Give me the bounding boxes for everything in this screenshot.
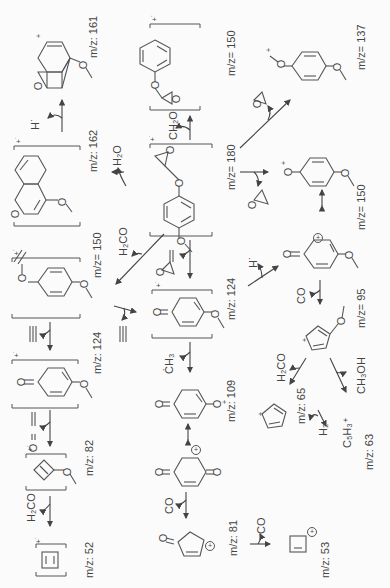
mz-label-137: m/z= 137 <box>356 24 367 70</box>
arrow <box>254 172 259 186</box>
atom-o: O <box>282 250 293 259</box>
atom-o: O <box>174 179 185 188</box>
loss-h-radical: H˙ <box>30 118 41 130</box>
loss-h2o: H₂O <box>112 145 123 166</box>
arrow <box>132 253 142 256</box>
loss-h2co-b: H₂CO <box>276 353 287 382</box>
loss-h-radical-b: H˙ <box>248 256 259 268</box>
charge-plus: + <box>280 161 287 165</box>
arrow <box>310 415 318 420</box>
atom-o: O <box>78 61 89 70</box>
atom-o: O <box>336 317 347 326</box>
mz-label-150-top: m/z= 150 <box>226 30 237 76</box>
mz-label-52: m/z: 52 <box>84 542 95 578</box>
atom-o: O <box>212 468 223 477</box>
charge-plus: + <box>221 400 228 404</box>
atom-o: O <box>154 468 165 477</box>
bracket <box>12 360 78 364</box>
arrow <box>176 500 186 505</box>
arrow <box>258 534 261 544</box>
loss-co-a: CO <box>296 288 307 305</box>
charge-plus: + <box>35 34 42 38</box>
loss-ch3: ĊH₃ <box>164 354 175 374</box>
mz-label-53: m/z: 53 <box>320 542 331 578</box>
mz-label-180: m/z= 180 <box>226 144 237 190</box>
atom-o: O <box>62 468 73 477</box>
arrow <box>48 115 62 118</box>
radical-cation: +˙ <box>151 15 158 21</box>
atom-o: O <box>154 400 165 409</box>
atom-o: O <box>247 201 258 210</box>
radical-cation: +˙ <box>35 537 42 543</box>
c5h3-ion: C₅H₃⁺ <box>342 417 353 448</box>
bracket <box>152 290 212 294</box>
radical-cation: +˙ <box>15 137 22 143</box>
mz-label-81: m/z: 81 <box>228 520 239 556</box>
loss-co-b: CO <box>164 498 175 515</box>
mz-label-150-vinyl: m/z= 150 <box>92 232 103 278</box>
diagram-structures <box>0 0 390 588</box>
bracket <box>14 146 80 150</box>
atom-o: O <box>332 63 343 72</box>
atom-o: O <box>57 198 68 207</box>
loss-ch3oh: CH₃OH <box>356 357 367 394</box>
arrow <box>180 352 190 357</box>
bracket <box>150 106 200 110</box>
atom-o: O <box>176 237 187 246</box>
circled-plus: + <box>205 541 215 551</box>
atom-o: O <box>16 378 27 387</box>
mz-label-63: m/z: 63 <box>364 434 375 470</box>
arrow <box>40 330 50 335</box>
bracket <box>26 486 66 490</box>
atom-o: O <box>252 100 263 109</box>
arrow <box>40 504 50 510</box>
atom-o: O <box>340 169 351 178</box>
bracket <box>150 24 200 28</box>
phenyl-glycidyl-structure <box>140 40 172 104</box>
atom-o: O <box>155 268 166 277</box>
bracket <box>14 222 80 226</box>
acetylene-icon <box>120 326 126 342</box>
methoxy-cp-95-structure <box>306 306 344 350</box>
cyclopentenone-81-structure <box>166 532 204 556</box>
arrow <box>268 106 270 120</box>
atom-o: O <box>158 534 169 543</box>
atom-o: O <box>276 60 287 69</box>
atom-o: O <box>152 308 163 317</box>
fragmentation-diagram: m/z: 161 m/z: 162 m/z= 150 m/z= 137 m/z=… <box>0 0 390 588</box>
atom-o: O <box>10 210 21 219</box>
arrow <box>122 308 125 320</box>
loss-h2: H₂ <box>318 424 329 436</box>
arrow <box>310 290 320 294</box>
charge-plus: + <box>257 412 264 416</box>
atom-o: O <box>150 81 161 90</box>
atom-o: O <box>210 310 221 319</box>
arrow <box>290 358 306 384</box>
charge-plus: + <box>301 338 308 342</box>
radical-cation: +˙ <box>27 445 34 451</box>
mz-label-109: m/z: 109 <box>226 380 237 422</box>
mz-label-162: m/z: 162 <box>88 130 99 172</box>
arrow <box>336 372 346 373</box>
bracket <box>152 334 212 338</box>
bracket <box>36 544 66 548</box>
atom-o: O <box>344 251 355 260</box>
circled-plus: + <box>191 445 201 455</box>
circled-plus: + <box>313 233 323 243</box>
atom-o: O <box>79 380 90 389</box>
cyclopentadienyl-65-structure <box>262 404 286 428</box>
radical-cation: +˙ <box>149 135 156 141</box>
bracket <box>150 144 212 148</box>
atom-o: O <box>17 274 28 283</box>
arrow <box>240 100 290 148</box>
bracket <box>26 454 66 458</box>
arrow <box>248 266 278 286</box>
mz-label-123: m/z= 150 <box>356 184 367 230</box>
atom-o: O <box>283 168 294 177</box>
loss-h2co-c: H₂CO <box>26 493 37 522</box>
quinone-109b-structure <box>162 458 214 486</box>
atom-o: O <box>79 280 90 289</box>
circled-plus: + <box>307 527 317 537</box>
mz-label-124a: m/z: 124 <box>92 332 103 374</box>
cyclobutenyl-53-structure <box>290 536 306 552</box>
